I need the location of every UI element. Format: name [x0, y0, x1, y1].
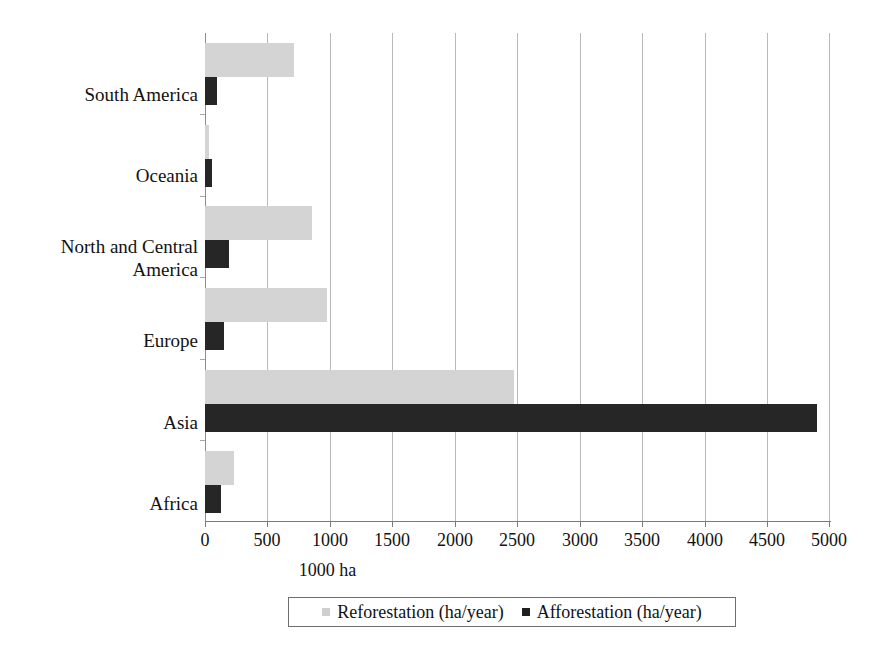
x-tick-mark-3500 — [642, 522, 643, 527]
x-tick-mark-2500 — [517, 522, 518, 527]
bar-chart-figure: South America Oceania North and Central … — [0, 0, 881, 651]
legend-label-afforestation: Afforestation (ha/year) — [537, 602, 702, 623]
bar-afforestation-africa — [205, 485, 221, 513]
legend-swatch-reforestation — [322, 608, 330, 616]
x-tick-label-5000: 5000 — [784, 530, 874, 551]
legend-entry-reforestation: Reforestation (ha/year) — [322, 602, 503, 623]
bar-reforestation-asia — [205, 370, 514, 404]
bar-reforestation-europe — [205, 288, 327, 322]
category-label-oceania-text: Oceania — [0, 164, 198, 187]
x-tick-mark-500 — [267, 522, 268, 527]
gridline-2500 — [517, 33, 518, 522]
gridline-500 — [267, 33, 268, 522]
x-tick-mark-5000 — [829, 522, 830, 527]
x-axis-title-text: 1000 ha — [299, 560, 357, 581]
bar-reforestation-africa — [205, 451, 234, 485]
gridline-5000 — [829, 33, 830, 522]
y-tick-mark-1 — [200, 114, 205, 115]
bar-reforestation-oceania — [205, 125, 209, 159]
category-label-europe-text: Europe — [0, 329, 198, 352]
category-label-north-and-central-america-text: North and Central America — [0, 235, 198, 281]
bar-afforestation-south-america — [205, 77, 217, 105]
y-tick-mark-2 — [200, 196, 205, 197]
bar-afforestation-north-and-central-america — [205, 240, 229, 268]
legend-label-reforestation: Reforestation (ha/year) — [337, 602, 503, 623]
x-tick-mark-3000 — [580, 522, 581, 527]
category-label-africa-text: Africa — [0, 492, 198, 515]
gridline-1500 — [392, 33, 393, 522]
category-label-asia-text: Asia — [0, 411, 198, 434]
x-tick-mark-1000 — [330, 522, 331, 527]
gridline-0 — [205, 33, 206, 522]
bar-afforestation-oceania — [205, 159, 212, 187]
category-label-south-america-text: South America — [0, 83, 198, 106]
legend-swatch-afforestation — [522, 608, 530, 616]
gridline-1000 — [330, 33, 331, 522]
x-tick-mark-4000 — [705, 522, 706, 527]
gridline-4000 — [705, 33, 706, 522]
gridline-3500 — [642, 33, 643, 522]
bar-afforestation-europe — [205, 322, 224, 350]
x-tick-mark-4500 — [767, 522, 768, 527]
plot-area — [205, 33, 830, 522]
x-tick-mark-0 — [205, 522, 206, 527]
gridline-2000 — [455, 33, 456, 522]
x-tick-mark-2000 — [455, 522, 456, 527]
x-axis-title: 1000 ha — [0, 560, 881, 581]
y-tick-mark-5 — [200, 440, 205, 441]
chart-legend: Reforestation (ha/year) Afforestation (h… — [288, 597, 736, 627]
x-tick-mark-1500 — [392, 522, 393, 527]
gridline-4500 — [767, 33, 768, 522]
bar-afforestation-asia — [205, 404, 817, 432]
y-tick-mark-4 — [200, 359, 205, 360]
y-tick-mark-3 — [200, 277, 205, 278]
bar-reforestation-north-and-central-america — [205, 206, 312, 240]
x-axis-line — [205, 521, 831, 522]
bar-reforestation-south-america — [205, 43, 294, 77]
legend-entry-afforestation: Afforestation (ha/year) — [522, 602, 702, 623]
gridline-3000 — [580, 33, 581, 522]
